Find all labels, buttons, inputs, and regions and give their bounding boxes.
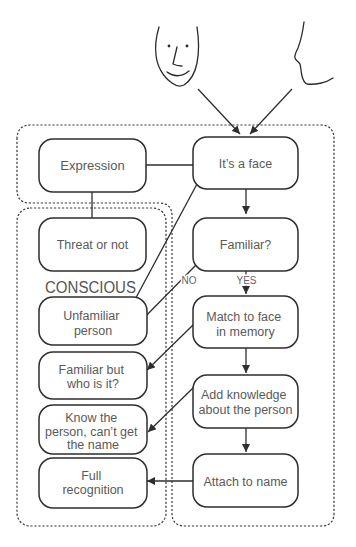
node-label: It’s a face bbox=[219, 157, 272, 171]
node-label-line: recognition bbox=[62, 483, 123, 497]
node-label-line: about the person bbox=[199, 403, 293, 417]
node-label-line: It’s a face bbox=[219, 157, 272, 171]
node-label-line: Attach to name bbox=[203, 475, 287, 489]
frontal-face-outline bbox=[156, 27, 199, 86]
profile-face-outline bbox=[295, 22, 333, 84]
node-label-line: Know the bbox=[65, 411, 117, 425]
face-recognition-diagram: CONSCIOUS NO YES It’s a face Familiar? bbox=[0, 0, 356, 547]
profile-face-icon bbox=[295, 22, 333, 84]
diagram-canvas: CONSCIOUS NO YES It’s a face Familiar? bbox=[0, 0, 356, 547]
arrow-add-knowledge-to-know-person bbox=[148, 387, 194, 432]
node-label: Familiar? bbox=[220, 238, 271, 252]
node-add-knowledge: Add knowledge about the person bbox=[193, 375, 298, 428]
arrow-match-to-familiar-but-who bbox=[147, 325, 193, 370]
node-label-line: Familiar but bbox=[59, 363, 125, 377]
node-label-line: in memory bbox=[216, 325, 275, 339]
node-attach-to-name: Attach to name bbox=[193, 454, 298, 507]
edge-label-yes: YES bbox=[236, 275, 256, 286]
node-full-recognition: Full recognition bbox=[39, 458, 147, 508]
node-label-line: Familiar? bbox=[220, 238, 271, 252]
node-label-line: who is it? bbox=[66, 377, 119, 391]
node-label-line: the name bbox=[67, 438, 119, 452]
node-label-line: Unfamiliar bbox=[63, 309, 119, 323]
node-label: Attach to name bbox=[203, 475, 287, 489]
node-match-to-face: Match to face in memory bbox=[193, 296, 298, 348]
arrow-frontal-face-to-its-a-face bbox=[198, 89, 240, 134]
node-familiar-but-who: Familiar but who is it? bbox=[39, 352, 147, 399]
node-label-line: Match to face bbox=[206, 310, 281, 324]
node-label-line: Full bbox=[81, 469, 101, 483]
node-familiar-question: Familiar? bbox=[193, 218, 298, 271]
conscious-label: CONSCIOUS bbox=[45, 279, 136, 296]
nose bbox=[173, 47, 182, 66]
node-expression: Expression bbox=[39, 139, 146, 192]
node-label: Threat or not bbox=[57, 238, 129, 252]
node-label-line: Threat or not bbox=[57, 238, 129, 252]
node-its-a-face: It’s a face bbox=[193, 137, 298, 189]
node-label: Familiar but who is it? bbox=[59, 363, 128, 391]
node-label-line: Add knowledge bbox=[201, 388, 287, 402]
node-threat-or-not: Threat or not bbox=[39, 218, 146, 271]
node-unfamiliar-person: Unfamiliar person bbox=[39, 297, 147, 345]
node-label: Add knowledge about the person bbox=[199, 388, 293, 417]
node-label: Expression bbox=[60, 158, 124, 173]
node-label-line: Expression bbox=[60, 158, 124, 173]
arrow-profile-face-to-its-a-face bbox=[250, 89, 292, 134]
left-eye bbox=[168, 45, 171, 48]
node-label: Match to face in memory bbox=[206, 310, 285, 339]
node-know-the-person: Know the person, can’t get the name bbox=[39, 405, 147, 454]
edge-label-no: NO bbox=[182, 275, 197, 286]
node-label-line: person bbox=[74, 324, 112, 338]
right-eye bbox=[186, 45, 189, 48]
mouth bbox=[167, 71, 189, 76]
frontal-face-icon bbox=[156, 27, 199, 86]
node-label-line: person, can’t get bbox=[45, 425, 138, 439]
node-box bbox=[193, 375, 298, 428]
